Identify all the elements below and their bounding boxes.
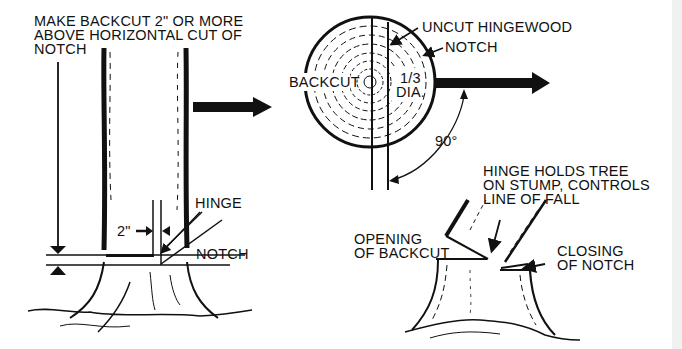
- hinge-note-line-1: HINGE HOLDS TREE: [483, 164, 650, 178]
- uncut-hingewood-text: UNCUT HINGEWOOD: [422, 20, 572, 34]
- hinge-label-text: HINGE: [195, 196, 242, 210]
- transition-arrow-2: [436, 72, 550, 94]
- closing-line-1: CLOSING: [557, 244, 634, 258]
- hinge-holds-note: HINGE HOLDS TREE ON STUMP, CONTROLS LINE…: [483, 164, 650, 206]
- stump-cross-section: [305, 16, 435, 190]
- tree-felling-diagram: MAKE BACKCUT 2" OR MORE ABOVE HORIZONTAL…: [0, 0, 682, 349]
- depth-label: 1/3 DIA.: [396, 71, 425, 99]
- notch-label-left-text: NOTCH: [196, 247, 249, 261]
- angle-label: 90°: [435, 134, 458, 148]
- tree-trunk-left: [28, 48, 252, 332]
- opening-of-backcut-label: OPENING OF BACKCUT: [354, 232, 449, 260]
- instruction-line-2: ABOVE HORIZONTAL CUT OF: [34, 28, 243, 42]
- backcut-label-text: BACKCUT: [289, 75, 360, 89]
- opening-line-2: OF BACKCUT: [354, 246, 449, 260]
- hinge-holds-leader: [492, 220, 500, 250]
- depth-label-line-2: DIA.: [396, 85, 425, 99]
- uncut-hingewood-label: UNCUT HINGEWOOD: [422, 20, 572, 34]
- closing-of-notch-label: CLOSING OF NOTCH: [557, 244, 634, 272]
- angle-arrowhead-bottom: [389, 175, 399, 184]
- depth-label-line-1: 1/3: [396, 71, 425, 85]
- closing-line-2: OF NOTCH: [557, 258, 634, 272]
- angle-arrowhead-top: [460, 89, 468, 99]
- transition-arrow-1: [193, 97, 272, 117]
- falling-tree-illustration: [405, 200, 580, 340]
- backcut-instruction: MAKE BACKCUT 2" OR MORE ABOVE HORIZONTAL…: [34, 14, 243, 56]
- two-inch-label-text: 2": [117, 224, 131, 238]
- notch-label-left: NOTCH: [196, 247, 249, 261]
- two-inch-label: 2": [117, 224, 131, 238]
- hinge-label: HINGE: [195, 196, 242, 210]
- instruction-line-3: NOTCH: [34, 42, 243, 56]
- notch-label-top-text: NOTCH: [445, 40, 498, 54]
- hinge-note-line-3: LINE OF FALL: [483, 192, 650, 206]
- angle-label-text: 90°: [435, 134, 458, 148]
- offset-dimension-arrow: [50, 62, 66, 275]
- opening-line-1: OPENING: [354, 232, 449, 246]
- notch-label-top: NOTCH: [445, 40, 498, 54]
- instruction-line-1: MAKE BACKCUT 2" OR MORE: [34, 14, 243, 28]
- hinge-note-line-2: ON STUMP, CONTROLS: [483, 178, 650, 192]
- backcut-label: BACKCUT: [289, 75, 360, 89]
